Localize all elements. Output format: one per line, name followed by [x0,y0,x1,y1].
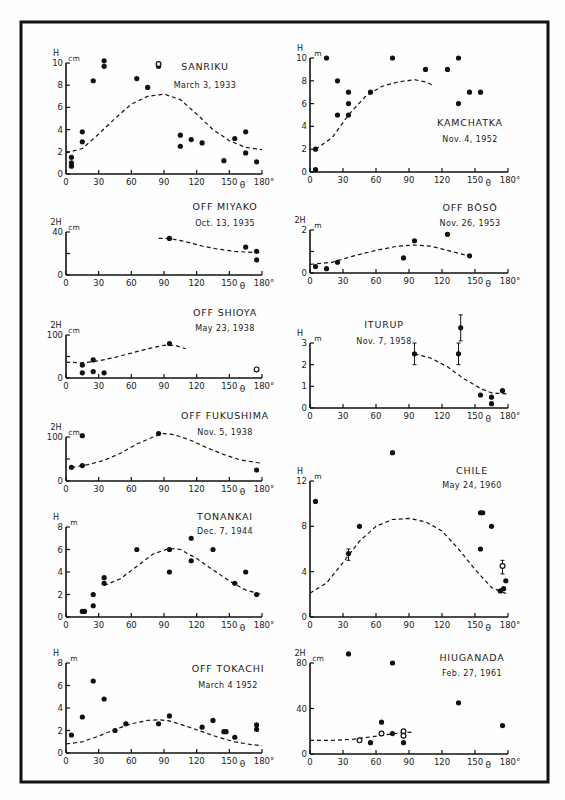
data-point [80,463,85,468]
x-axis-label: θ [485,760,491,770]
panel-title: OFF SHIOYA [193,307,257,318]
y-tick-label: 4 [58,567,63,577]
x-tick-label: 30 [338,276,349,286]
data-point [324,55,329,60]
data-point [200,140,205,145]
data-point [91,603,96,608]
y-tick-label: 8 [58,80,63,90]
x-axis-label: θ [240,384,246,394]
data-point [189,137,194,142]
data-point [102,575,107,580]
y-tick-label: 2 [302,144,307,154]
data-point [390,450,395,455]
data-point [458,325,463,330]
panel-subtitle: March 4 1952 [198,681,258,690]
x-tick-label: 180° [500,175,520,185]
y-tick-label: 40 [52,227,63,237]
x-tick-label: 60 [371,276,382,286]
x-tick-label: 60 [126,381,137,391]
y-tick-label: 100 [47,432,63,442]
data-point [467,253,472,258]
data-point [102,370,107,375]
data-point [102,581,107,586]
y-tick-label: 6 [302,99,307,109]
data-point [423,67,428,72]
data-point [346,90,351,95]
x-tick-label: 120 [189,278,205,288]
y-tick-label: 2 [58,147,63,157]
data-point [401,740,406,745]
data-point [156,721,161,726]
x-tick-label: 0 [307,411,312,421]
data-point [210,547,215,552]
data-point [243,244,248,249]
x-tick-label: 180° [254,620,274,630]
chart-panel-chile: 0306090120150180°θ04812HmCHILEMay 24, 19… [296,450,520,633]
theory-curve [66,720,262,746]
x-tick-label: 150 [221,381,237,391]
data-point [178,144,183,149]
data-point [80,139,85,144]
data-point [243,150,248,155]
x-tick-label: 150 [467,757,483,767]
panel-subtitle: Nov. 26, 1953 [440,219,501,228]
data-point [91,592,96,597]
y-axis-unit: m [314,334,321,343]
x-tick-label: 60 [126,278,137,288]
panel-title: OFF TOKACHI [192,663,264,674]
x-tick-label: 150 [467,620,483,630]
x-tick-label: 0 [63,278,68,288]
x-tick-label: 0 [63,756,68,766]
x-axis-label: θ [485,178,491,188]
data-point [134,547,139,552]
panel-title: KAMCHATKA [437,117,503,128]
x-tick-label: 180° [254,381,274,391]
x-axis-label: θ [485,279,491,289]
data-point [480,510,485,515]
data-point [346,112,351,117]
x-tick-label: 0 [307,757,312,767]
y-tick-label: 1 [302,381,307,391]
y-tick-label: 0 [58,169,63,179]
y-axis-unit: m [70,518,77,527]
chart-panel-tonankai: 0306090120150180°θ02468HmTONANKAIDec. 7,… [53,511,274,633]
x-tick-label: 30 [338,757,349,767]
y-tick-label: 0 [58,612,63,622]
data-point [254,257,259,262]
panel-title: HIUGANADA [439,652,504,663]
x-tick-label: 180° [500,276,520,286]
x-axis-label: θ [240,759,246,769]
y-tick-label: 40 [296,704,307,714]
theory-curve [104,548,262,594]
x-tick-label: 150 [221,177,237,187]
data-point [167,341,172,346]
y-axis-label: 2H [50,218,61,227]
data-point [80,363,85,368]
data-point [156,431,161,436]
x-tick-label: 120 [189,756,205,766]
data-point [412,238,417,243]
y-tick-label: 4 [302,121,307,131]
x-tick-label: 150 [467,276,483,286]
data-point [167,713,172,718]
y-tick-label: 0 [302,268,307,278]
x-tick-label: 150 [221,756,237,766]
y-tick-label: 6 [58,681,63,691]
panel-title: TONANKAI [196,511,253,522]
data-point [221,158,226,163]
y-tick-label: 0 [302,749,307,759]
y-axis-label: H [53,513,59,522]
x-tick-label: 90 [159,484,170,494]
panel-subtitle: March 3, 1933 [174,81,237,90]
data-point [346,651,351,656]
data-point [500,723,505,728]
y-tick-label: 12 [296,476,307,486]
data-point [467,90,472,95]
x-tick-label: 90 [159,278,170,288]
data-point [69,160,74,165]
data-point [313,499,318,504]
y-tick-label: 6 [58,545,63,555]
y-axis-unit: cm [312,654,323,663]
x-tick-label: 150 [221,620,237,630]
y-tick-label: 4 [58,125,63,135]
